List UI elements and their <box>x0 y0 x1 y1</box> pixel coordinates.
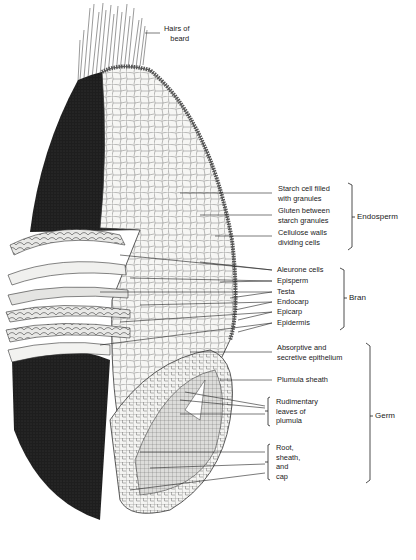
label-line: secretive epithelium <box>277 353 342 363</box>
outer-husk-lower <box>12 350 110 520</box>
label-root-sheath-cap: Root, sheath, and cap <box>276 443 300 481</box>
label-line: plumula <box>276 416 318 426</box>
group-endosperm: Endosperm <box>357 212 398 222</box>
label-line: dividing cells <box>278 238 327 248</box>
label-line: Starch cell filled <box>278 184 330 194</box>
label-epidermis: Epidermis <box>277 318 310 328</box>
label-line: Gluten between <box>278 206 330 216</box>
label-line: leaves of <box>276 407 318 417</box>
label-line: with granules <box>278 194 330 204</box>
label-hairs-of-beard: Hairs of beard <box>164 24 189 43</box>
wheat-kernel-illustration <box>0 0 416 560</box>
label-line: cap <box>276 472 300 482</box>
label-aleurone-cells: Aleurone cells <box>277 265 323 275</box>
label-cellulose-walls: Cellulose walls dividing cells <box>278 228 327 247</box>
label-endocarp: Endocarp <box>277 297 309 307</box>
group-bran: Bran <box>349 293 366 303</box>
label-epicarp: Epicarp <box>277 307 302 317</box>
label-episperm: Episperm <box>277 276 308 286</box>
label-gluten: Gluten between starch granules <box>278 206 330 225</box>
label-line: beard <box>164 34 189 44</box>
label-line: and <box>276 462 300 472</box>
label-line: Absorptive and <box>277 343 342 353</box>
label-testa: Testa <box>277 287 295 297</box>
label-plumula-sheath: Plumula sheath <box>277 375 328 385</box>
label-line: Rudimentary <box>276 397 318 407</box>
group-germ: Germ <box>375 411 395 421</box>
bran-layers <box>6 229 130 362</box>
label-line: Hairs of <box>164 24 189 34</box>
label-line: Cellulose walls <box>278 228 327 238</box>
label-line: sheath, <box>276 453 300 463</box>
label-rudimentary-leaves: Rudimentary leaves of plumula <box>276 397 318 426</box>
label-absorptive-epithelium: Absorptive and secretive epithelium <box>277 343 342 362</box>
label-starch-cell: Starch cell filled with granules <box>278 184 330 203</box>
label-line: starch granules <box>278 216 330 226</box>
label-line: Root, <box>276 443 300 453</box>
